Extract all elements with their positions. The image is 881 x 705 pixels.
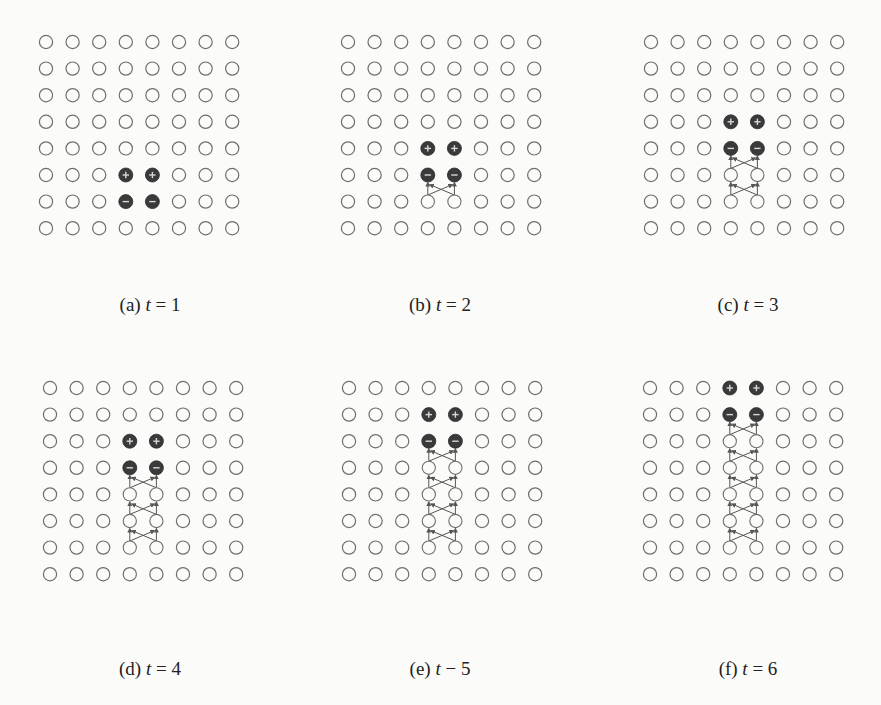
empty-site-icon xyxy=(448,89,461,102)
empty-site-icon xyxy=(66,89,79,102)
empty-site-icon xyxy=(777,195,790,208)
empty-site-icon xyxy=(97,435,110,448)
empty-site-icon xyxy=(644,168,657,181)
empty-site-icon xyxy=(804,35,817,48)
empty-site-icon xyxy=(697,568,710,581)
empty-site-icon xyxy=(449,568,462,581)
empty-site-icon xyxy=(39,222,52,235)
empty-site-icon xyxy=(750,541,763,554)
empty-site-icon xyxy=(830,461,843,474)
empty-site-icon xyxy=(670,435,683,448)
empty-site-icon xyxy=(804,142,817,155)
empty-site-icon xyxy=(831,115,844,128)
empty-site-icon xyxy=(396,568,409,581)
empty-site-icon xyxy=(119,35,132,48)
empty-site-icon xyxy=(697,435,710,448)
empty-site-icon xyxy=(119,89,132,102)
empty-site-icon xyxy=(751,35,764,48)
empty-site-icon xyxy=(172,115,185,128)
empty-site-icon xyxy=(803,488,816,501)
empty-site-icon xyxy=(803,408,816,421)
empty-site-icon xyxy=(671,115,684,128)
empty-site-icon xyxy=(803,568,816,581)
minus-site-icon xyxy=(447,168,461,182)
diagonal-arrow-icon xyxy=(730,504,755,514)
empty-site-icon xyxy=(150,408,163,421)
empty-site-icon xyxy=(199,222,212,235)
empty-site-icon xyxy=(750,514,763,527)
diagonal-arrow-icon xyxy=(730,477,755,487)
empty-site-icon xyxy=(93,89,106,102)
empty-site-icon xyxy=(528,195,541,208)
empty-site-icon xyxy=(475,461,488,474)
empty-site-icon xyxy=(671,142,684,155)
plus-site-icon xyxy=(422,408,436,422)
empty-site-icon xyxy=(369,435,382,448)
empty-site-icon xyxy=(342,435,355,448)
empty-site-icon xyxy=(777,168,790,181)
empty-site-icon xyxy=(342,381,355,394)
empty-site-icon xyxy=(644,115,657,128)
minus-site-icon xyxy=(422,434,436,448)
empty-site-icon xyxy=(203,514,216,527)
empty-site-icon xyxy=(368,89,381,102)
diagonal-arrow-icon xyxy=(429,504,454,514)
empty-site-icon xyxy=(395,142,408,155)
plus-site-icon xyxy=(723,381,737,395)
empty-site-icon xyxy=(396,541,409,554)
empty-site-icon xyxy=(529,461,542,474)
caption-d: (d) t = 4 xyxy=(119,658,181,680)
diagonal-arrow-icon xyxy=(730,451,755,461)
empty-site-icon xyxy=(643,568,656,581)
plus-site-icon xyxy=(749,381,763,395)
diagonal-arrow-icon xyxy=(431,504,456,514)
caption-value: 3 xyxy=(769,294,779,315)
plus-site-icon xyxy=(724,115,738,129)
empty-site-icon xyxy=(43,488,56,501)
empty-site-icon xyxy=(43,568,56,581)
empty-site-icon xyxy=(697,381,710,394)
empty-site-icon xyxy=(70,514,83,527)
diagonal-arrow-icon xyxy=(132,477,157,487)
empty-site-icon xyxy=(724,195,737,208)
empty-site-icon xyxy=(203,435,216,448)
lattice-grid-e xyxy=(339,378,545,584)
empty-site-icon xyxy=(724,62,737,75)
empty-site-icon xyxy=(97,541,110,554)
empty-site-icon xyxy=(698,62,711,75)
caption-b: (b) t = 2 xyxy=(409,294,471,316)
empty-site-icon xyxy=(474,168,487,181)
empty-site-icon xyxy=(644,142,657,155)
empty-site-icon xyxy=(93,115,106,128)
empty-site-icon xyxy=(39,35,52,48)
empty-site-icon xyxy=(528,168,541,181)
empty-site-icon xyxy=(502,541,515,554)
empty-site-icon xyxy=(831,35,844,48)
empty-site-icon xyxy=(421,89,434,102)
empty-site-icon xyxy=(203,541,216,554)
empty-site-icon xyxy=(644,89,657,102)
empty-site-icon xyxy=(97,461,110,474)
empty-site-icon xyxy=(502,408,515,421)
caption-label: (e) xyxy=(410,658,431,679)
empty-site-icon xyxy=(230,568,243,581)
empty-site-icon xyxy=(670,381,683,394)
empty-site-icon xyxy=(529,381,542,394)
diagonal-arrow-icon xyxy=(430,185,455,195)
diagonal-arrow-icon xyxy=(428,185,453,195)
empty-site-icon xyxy=(421,115,434,128)
empty-site-icon xyxy=(670,514,683,527)
diagonal-arrow-icon xyxy=(130,477,155,487)
empty-site-icon xyxy=(803,381,816,394)
empty-site-icon xyxy=(475,408,488,421)
diagonal-arrow-icon xyxy=(732,531,757,541)
empty-site-icon xyxy=(395,35,408,48)
empty-site-icon xyxy=(70,408,83,421)
empty-site-icon xyxy=(396,435,409,448)
empty-site-icon xyxy=(176,568,189,581)
empty-site-icon xyxy=(368,35,381,48)
empty-site-icon xyxy=(369,514,382,527)
empty-site-icon xyxy=(66,35,79,48)
empty-site-icon xyxy=(475,514,488,527)
empty-site-icon xyxy=(831,195,844,208)
